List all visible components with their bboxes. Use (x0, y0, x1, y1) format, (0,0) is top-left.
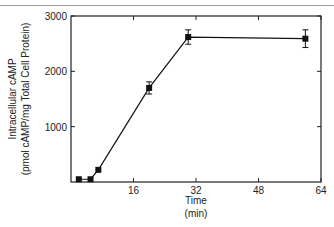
data-point (302, 36, 308, 42)
x-tick-label: 16 (128, 185, 140, 196)
data-series (76, 30, 309, 182)
plot-border (71, 16, 321, 182)
chart: 16324864100020003000 Time (min) Intracel… (0, 0, 334, 227)
data-point (76, 176, 82, 182)
plot-frame (71, 16, 321, 182)
x-axis-unit: (min) (185, 208, 208, 219)
x-tick-label: 64 (315, 185, 327, 196)
y-axis-title: Intracellular cAMP (7, 58, 18, 139)
data-point (146, 85, 152, 91)
data-point (88, 176, 94, 182)
y-tick-label: 1000 (45, 122, 68, 133)
y-tick-label: 3000 (45, 11, 68, 22)
axis-ticks (71, 16, 321, 182)
x-tick-label: 48 (253, 185, 265, 196)
y-tick-label: 2000 (45, 66, 68, 77)
data-point (95, 167, 101, 173)
y-axis-unit: (pmol cAMP/mg Total Cell Protein) (20, 23, 31, 176)
x-axis-title: Time (185, 195, 207, 206)
data-point (185, 34, 191, 40)
series-line (79, 37, 306, 179)
